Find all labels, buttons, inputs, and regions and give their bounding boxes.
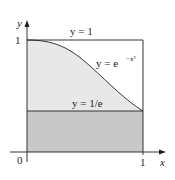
integral-bounds-diagram: y 1 0 1 x y = 1 y = e −x² y = 1/e — [0, 0, 175, 180]
y-tick-1: 1 — [15, 34, 21, 46]
x-tick-1: 1 — [140, 156, 146, 168]
origin-label: 0 — [17, 154, 23, 166]
label-curve-exponent: −x² — [126, 55, 136, 63]
y-axis-arrow-icon — [25, 20, 30, 27]
label-curve: y = e — [96, 57, 118, 69]
y-axis-label: y — [16, 17, 22, 29]
x-axis-arrow-icon — [159, 150, 166, 155]
x-axis-label: x — [159, 156, 165, 168]
region-below-1-over-e — [27, 111, 143, 152]
label-y-equals-1-over-e: y = 1/e — [72, 97, 103, 109]
label-y-equals-1: y = 1 — [70, 25, 93, 37]
